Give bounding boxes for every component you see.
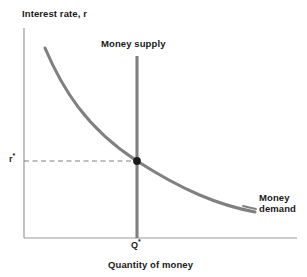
x-axis-title: Quantity of money (108, 259, 193, 270)
money-demand-label-line1: Money (259, 192, 290, 203)
x-axis-tick-label-q-star: Q* (131, 240, 141, 251)
r-star-superscript: * (13, 152, 16, 159)
money-demand-label: Money demand (259, 192, 296, 214)
money-demand-label-line2: demand (259, 203, 296, 214)
y-axis-title: Interest rate, r (22, 8, 87, 19)
money-supply-label: Money supply (101, 38, 166, 49)
q-star-superscript: * (138, 238, 141, 245)
money-demand-curve (45, 48, 255, 212)
y-axis-tick-label-r-star: r* (9, 154, 15, 165)
money-market-chart: Interest rate, r Quantity of money Money… (0, 0, 307, 277)
equilibrium-point (133, 157, 141, 165)
